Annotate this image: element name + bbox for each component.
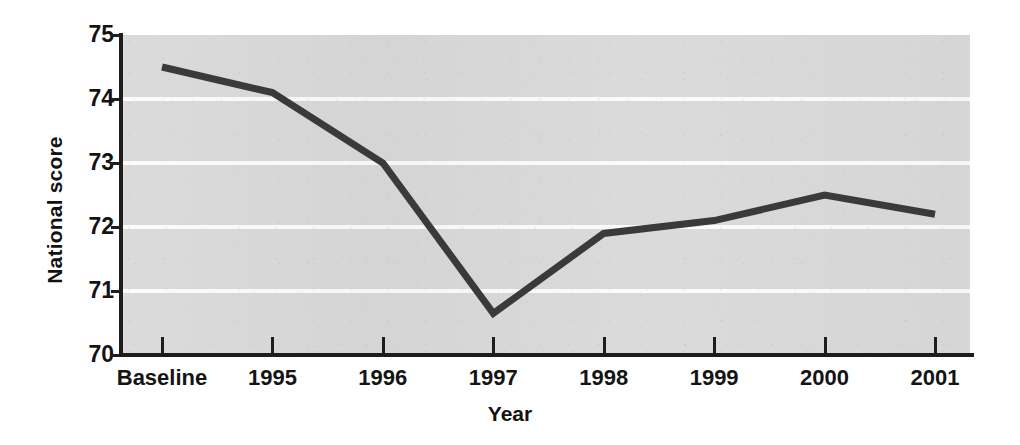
x-axis-tick-label: 2000	[800, 365, 849, 391]
y-axis-tick-label: 71	[58, 279, 114, 302]
x-axis-tick-label: 2001	[911, 365, 960, 391]
x-axis-tick-mark	[271, 337, 274, 357]
y-axis-tick-mark	[111, 162, 122, 165]
x-axis-tick-mark	[713, 337, 716, 357]
x-axis-tick-label: 1997	[469, 365, 518, 391]
y-axis-line	[119, 33, 123, 357]
y-axis-tick-mark	[111, 290, 122, 293]
y-axis-tick-label: 74	[58, 87, 114, 110]
x-axis-tick-mark	[492, 337, 495, 357]
y-axis-tick-label: 73	[58, 151, 114, 174]
x-axis-tick-mark	[934, 337, 937, 357]
x-axis-tick-label: 1995	[248, 365, 297, 391]
y-axis-tick-mark	[111, 354, 122, 357]
x-axis-tick-mark	[161, 337, 164, 357]
line-chart: National score 757473727170 Baseline1995…	[0, 0, 1020, 445]
x-axis-tick-label: 1999	[690, 365, 739, 391]
x-axis-tick-label: 1996	[358, 365, 407, 391]
y-axis-tick-mark	[111, 34, 122, 37]
x-axis-tick-marks	[122, 357, 970, 358]
x-axis-tick-label: 1998	[579, 365, 628, 391]
x-axis-tick-label: Baseline	[117, 365, 208, 391]
y-axis-tick-label: 70	[58, 343, 114, 366]
x-axis-tick-mark	[824, 337, 827, 357]
x-axis-tick-mark	[382, 337, 385, 357]
plot-area	[122, 35, 970, 355]
x-axis-title: Year	[0, 402, 1020, 426]
y-axis-tick-label: 72	[58, 215, 114, 238]
data-series-line	[122, 35, 970, 355]
x-axis-tick-mark	[603, 337, 606, 357]
y-axis-tick-label: 75	[58, 23, 114, 46]
y-axis-tick-mark	[111, 98, 122, 101]
y-axis-tick-mark	[111, 226, 122, 229]
y-axis-tick-labels: 757473727170	[56, 0, 114, 445]
